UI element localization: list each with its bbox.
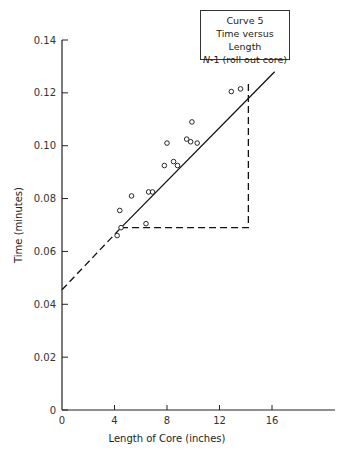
legend-annotation: N-1 (roll out core) (201, 53, 289, 66)
ticks: 00.020.040.060.080.100.120.140481216 (34, 35, 279, 427)
scatter-chart: 00.020.040.060.080.100.120.140481216 Len… (0, 0, 348, 456)
y-tick-label: 0.04 (34, 299, 56, 310)
data-point (162, 163, 167, 168)
y-tick-label: 0.06 (34, 246, 56, 257)
legend-subtitle: Time versus Length (201, 27, 289, 53)
y-tick-label: 0.12 (34, 87, 56, 98)
data-point (188, 139, 193, 144)
data-point (229, 89, 234, 94)
x-tick-label: 0 (59, 415, 65, 426)
data-point (117, 208, 122, 213)
x-tick-label: 12 (213, 415, 226, 426)
slope-triangle (121, 81, 248, 228)
data-point (238, 87, 243, 92)
y-axis-title: Time (minutes) (13, 187, 24, 264)
data-point (165, 141, 170, 146)
axes (62, 40, 335, 410)
data-point (119, 225, 124, 230)
data-point (175, 163, 180, 168)
fit-lines (62, 72, 275, 290)
data-point (195, 141, 200, 146)
y-tick-label: 0.02 (34, 352, 56, 363)
fitted-line (121, 72, 275, 228)
x-tick-label: 8 (164, 415, 170, 426)
data-point (115, 233, 120, 238)
legend-title: Curve 5 (201, 14, 289, 27)
y-tick-label: 0.08 (34, 193, 56, 204)
data-point (129, 194, 134, 199)
x-axis-title: Length of Core (inches) (109, 433, 226, 444)
fitted-line-extrapolation (62, 228, 121, 290)
data-point (171, 159, 176, 164)
y-tick-label: 0.10 (34, 140, 56, 151)
chart-legend-box: Curve 5 Time versus Length N-1 (roll out… (200, 10, 290, 60)
data-point (190, 120, 195, 125)
y-tick-label: 0 (50, 405, 56, 416)
y-tick-label: 0.14 (34, 35, 56, 46)
x-tick-label: 4 (111, 415, 117, 426)
x-tick-label: 16 (266, 415, 279, 426)
data-point (144, 221, 149, 226)
data-point (150, 190, 155, 195)
